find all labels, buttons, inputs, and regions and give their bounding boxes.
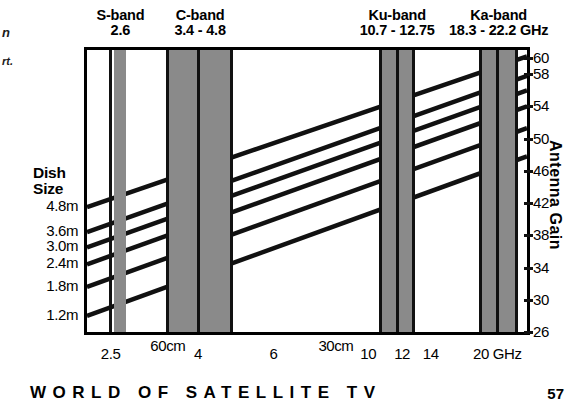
frequency-tick-10: 10 <box>360 346 376 361</box>
gain-tick-54: 54 <box>533 98 549 113</box>
band-boundary-line <box>412 50 415 332</box>
gain-tick-mark <box>524 234 533 237</box>
gain-tick-mark <box>524 267 533 270</box>
dish-size-tick-1.8m: 1.8m <box>26 278 78 293</box>
gain-tick-26: 26 <box>533 324 549 339</box>
gain-tick-60: 60 <box>533 50 549 65</box>
gain-line-1.2m <box>87 156 527 316</box>
gain-tick-mark <box>524 57 533 60</box>
band-boundary-line <box>197 50 200 332</box>
page-footer: WORLD OF SATELLITE TV 57 <box>0 383 578 409</box>
frequency-tick-2-5: 2.5 <box>101 346 121 361</box>
dish-size-tick-1.2m: 1.2m <box>26 307 78 322</box>
band-name: S-band <box>96 8 144 23</box>
band-boundary-line <box>496 50 499 332</box>
gain-tick-mark <box>524 331 533 334</box>
margin-note-fragment-1: n <box>2 26 10 39</box>
dish-size-tick-column: 4.8m3.6m3.0m2.4m1.8m1.2m <box>26 0 78 417</box>
frequency-tick-4: 4 <box>194 346 202 361</box>
band-boundary-line <box>479 50 482 332</box>
gain-tick-mark <box>524 73 533 76</box>
band-range: 10.7 - 12.75 <box>360 23 435 38</box>
band-label-ku-band: Ku-band 10.7 - 12.75 <box>360 8 435 38</box>
band-boundary-line <box>379 50 382 332</box>
plot-area <box>84 47 530 335</box>
band-boundary-line <box>166 50 169 332</box>
frequency-tick-14: 14 <box>423 346 439 361</box>
gain-tick-58: 58 <box>533 66 549 81</box>
footer-page-number: 57 <box>547 385 564 402</box>
band-boundary-line <box>396 50 399 332</box>
band-label-s-band: S-band 2.6 <box>96 8 144 38</box>
band-name: Ka-band <box>449 8 548 23</box>
plot-inner <box>87 50 527 332</box>
band-boundary-line <box>230 50 233 332</box>
dish-size-tick-4.8m: 4.8m <box>26 198 78 213</box>
gain-axis-title: Antenna Gain <box>546 140 564 250</box>
margin-note-fragment-2: rt. <box>2 56 13 67</box>
dish-size-tick-2.4m: 2.4m <box>26 255 78 270</box>
gain-tick-mark <box>524 299 533 302</box>
band-range: 18.3 - 22.2 GHz <box>449 23 548 38</box>
gain-tick-mark <box>524 138 533 141</box>
band-label-c-band: C-band 3.4 - 4.8 <box>174 8 225 38</box>
band-range: 2.6 <box>96 23 144 38</box>
gain-tick-mark <box>524 105 533 108</box>
frequency-tick-12: 12 <box>394 346 410 361</box>
antenna-gain-chart-figure: n rt. S-band 2.6 C-band 3.4 - 4.8 Ku-ban… <box>0 0 578 417</box>
dish-size-tick-3.6m: 3.6m <box>26 223 78 238</box>
footer-title: WORLD OF SATELLITE TV <box>30 383 382 403</box>
gain-line-series-group <box>87 50 527 332</box>
frequency-tick-20: 20 GHz <box>473 346 521 361</box>
band-boundary-line <box>515 50 518 332</box>
band-name: Ku-band <box>360 8 435 23</box>
gain-tick-34: 34 <box>533 260 549 275</box>
gain-line-3.0m <box>87 90 527 247</box>
dish-size-tick-3.0m: 3.0m <box>26 238 78 253</box>
gain-tick-mark <box>524 170 533 173</box>
frequency-tick-6: 6 <box>269 346 277 361</box>
band-label-ka-band: Ka-band 18.3 - 22.2 GHz <box>449 8 548 38</box>
wavelength-annotation-30cm: 30cm <box>318 338 353 353</box>
band-boundary-line <box>109 50 112 332</box>
band-shade-s-band <box>114 50 126 332</box>
gain-tick-mark <box>524 202 533 205</box>
band-range: 3.4 - 4.8 <box>174 23 225 38</box>
gain-tick-30: 30 <box>533 292 549 307</box>
wavelength-annotation-60cm: 60cm <box>150 338 185 353</box>
band-shade-c-band <box>168 50 232 332</box>
band-name: C-band <box>174 8 225 23</box>
